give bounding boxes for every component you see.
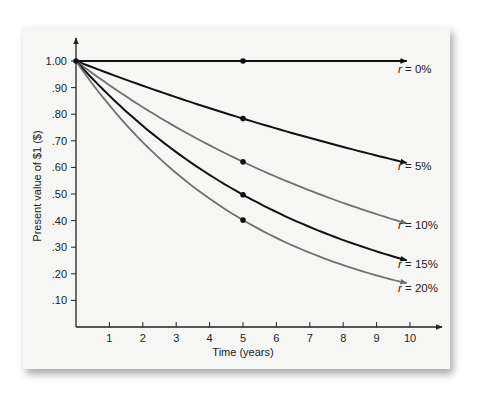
data-marker	[240, 159, 246, 165]
y-tick-label: .80	[52, 108, 67, 120]
series-lines	[76, 61, 407, 283]
y-axis-title: Present value of $1 ($)	[31, 130, 43, 241]
series-label: r = 5%	[398, 160, 432, 172]
series-label: r = 20%	[398, 282, 438, 294]
x-ticks: 12345678910	[106, 322, 416, 344]
series-label: r = 0%	[398, 63, 432, 75]
x-tick-label: 4	[207, 332, 213, 344]
x-tick-label: 10	[404, 332, 416, 344]
y-tick-label: .40	[52, 215, 67, 227]
x-tick-label: 1	[106, 332, 112, 344]
present-value-chart: 1.00.90.80.70.60.50.40.30.20.10 12345678…	[0, 0, 478, 393]
y-tick-label: .10	[52, 294, 67, 306]
y-tick-label: .90	[52, 82, 67, 94]
y-tick-label: 1.00	[46, 55, 67, 67]
data-marker	[240, 192, 246, 198]
y-tick-label: .70	[52, 135, 67, 147]
y-tick-label: .50	[52, 188, 67, 200]
y-tick-label: .30	[52, 241, 67, 253]
series-line	[76, 61, 407, 283]
x-tick-label: 3	[173, 332, 179, 344]
x-tick-label: 2	[140, 332, 146, 344]
x-axis-title: Time (years)	[212, 346, 273, 358]
data-marker	[240, 58, 246, 64]
data-marker	[240, 217, 246, 223]
y-tick-label: .60	[52, 161, 67, 173]
x-tick-label: 6	[273, 332, 279, 344]
x-tick-label: 8	[340, 332, 346, 344]
y-tick-label: .20	[52, 268, 67, 280]
series-label: r = 15%	[398, 258, 438, 270]
series-label: r = 10%	[398, 219, 438, 231]
data-marker	[240, 116, 246, 122]
y-ticks: 1.00.90.80.70.60.50.40.30.20.10	[46, 55, 76, 306]
series-labels: r = 0%r = 5%r = 10%r = 15%r = 20%	[398, 63, 438, 294]
origin-marker	[73, 58, 79, 64]
x-tick-label: 5	[240, 332, 246, 344]
x-tick-label: 9	[374, 332, 380, 344]
series-line	[76, 61, 407, 224]
x-tick-label: 7	[307, 332, 313, 344]
